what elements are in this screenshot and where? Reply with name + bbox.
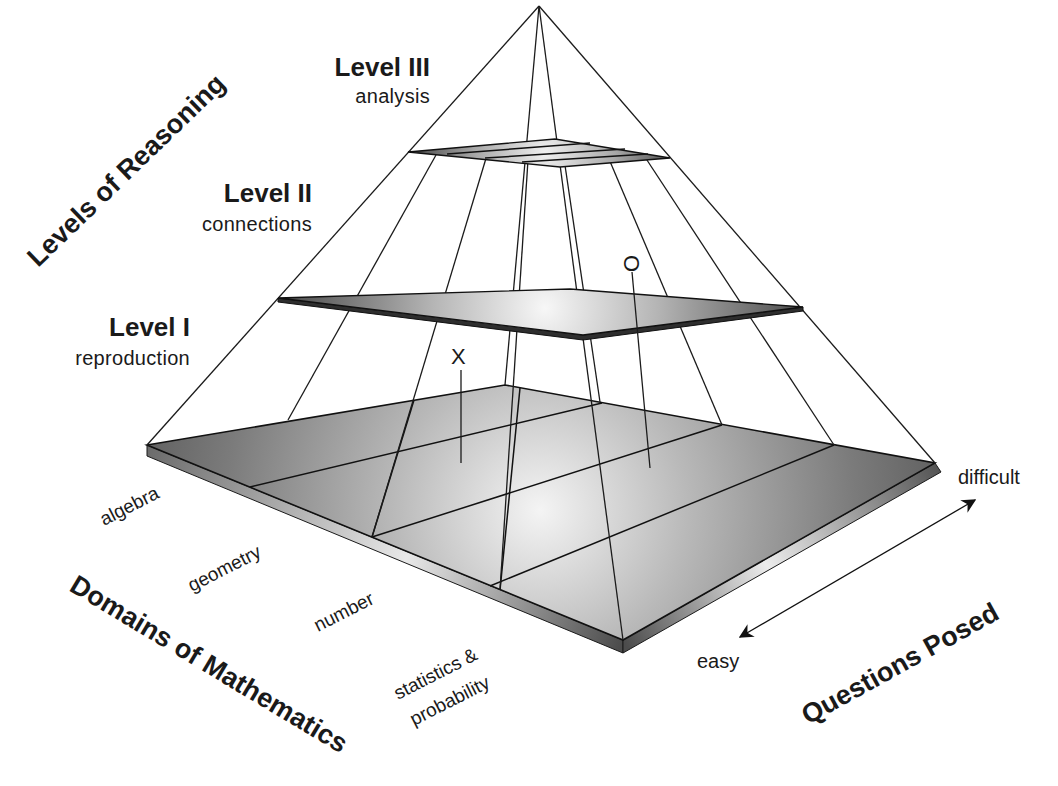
- guide-line-5: [606, 152, 722, 425]
- level-labels: Level III analysis Level II connections …: [75, 52, 430, 369]
- level-3-title: Level III: [335, 52, 430, 82]
- level-2-title: Level II: [224, 178, 312, 208]
- x-marker-glyph: X: [451, 344, 466, 369]
- level-1-title: Level I: [109, 312, 190, 342]
- difficulty-label-difficult: difficult: [958, 466, 1020, 488]
- difficulty-label-easy: easy: [697, 650, 739, 672]
- level-3-plane-surface: [408, 139, 670, 167]
- domain-label-geometry: geometry: [184, 541, 265, 596]
- base-top-surface: [147, 385, 935, 640]
- level-1-subtitle: reproduction: [75, 347, 190, 369]
- questions-posed-title: Questions Posed: [796, 597, 1003, 730]
- domains-of-mathematics-title: Domains of Mathematics: [65, 569, 353, 759]
- domain-label-number: number: [310, 587, 378, 635]
- reasoning-pyramid-diagram: X O Level III analysis Level II connecti…: [0, 0, 1058, 786]
- o-marker-glyph: O: [619, 255, 644, 272]
- levels-of-reasoning-title: Levels of Reasoning: [21, 68, 231, 272]
- base-plane-domains: [147, 385, 941, 653]
- domain-label-algebra: algebra: [96, 482, 162, 530]
- guide-line-4: [562, 145, 600, 402]
- level-3-plane: [408, 139, 670, 167]
- level-3-subtitle: analysis: [355, 85, 430, 107]
- level-2-subtitle: connections: [202, 213, 312, 235]
- level-1-plane: [278, 289, 803, 340]
